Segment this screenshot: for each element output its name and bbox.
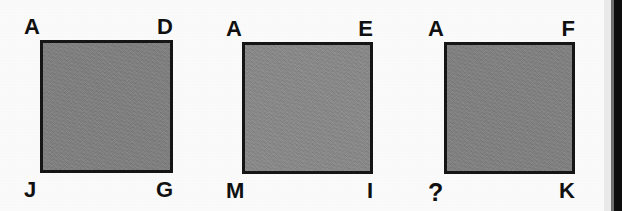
vertex-label-2-bottom-left: M	[226, 180, 244, 202]
square-shape-3	[444, 42, 575, 174]
vertex-label-2-top-left: A	[226, 18, 242, 40]
square-fill-2	[245, 45, 370, 171]
figure-page: A D J G A E M I A F ? K	[0, 0, 622, 211]
square-fill-1	[43, 43, 170, 170]
vertex-label-1-top-left: A	[24, 16, 40, 38]
vertex-label-1-bottom-right: G	[133, 179, 173, 201]
vertex-label-3-bottom-left-unknown: ?	[428, 180, 443, 205]
scan-edge-dark-band	[614, 0, 622, 211]
vertex-label-2-bottom-right: I	[333, 180, 373, 202]
scan-edge-light-band	[604, 0, 611, 211]
vertex-label-1-bottom-left: J	[24, 179, 36, 201]
vertex-label-3-top-right: F	[535, 18, 575, 40]
square-shape-1	[40, 40, 173, 173]
figure-group: A D J G A E M I A F ? K	[0, 0, 622, 211]
square-fill-3	[447, 45, 572, 171]
vertex-label-3-top-left: A	[428, 18, 444, 40]
vertex-label-2-top-right: E	[333, 18, 373, 40]
vertex-label-3-bottom-right: K	[535, 180, 575, 202]
vertex-label-1-top-right: D	[133, 16, 173, 38]
square-shape-2	[242, 42, 373, 174]
